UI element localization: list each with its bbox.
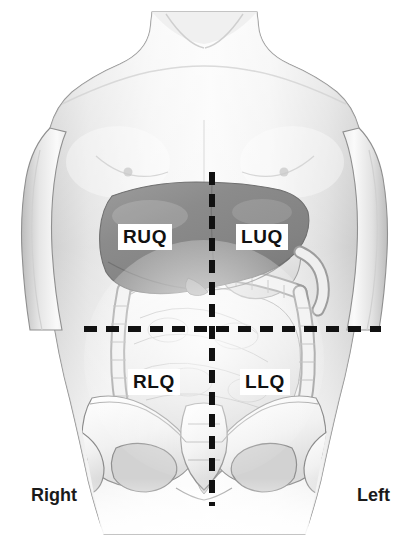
- quadrant-label-rlq: RLQ: [128, 369, 180, 395]
- quadrant-label-luq: LUQ: [236, 224, 288, 250]
- anatomy-illustration: [0, 0, 409, 543]
- orientation-label-right: Right: [31, 484, 77, 506]
- abdominal-quadrants-figure: RUQ LUQ RLQ LLQ Right Left: [0, 0, 409, 543]
- orientation-label-left: Left: [357, 484, 390, 506]
- quadrant-label-llq: LLQ: [240, 369, 290, 395]
- quadrant-label-ruq: RUQ: [118, 224, 172, 250]
- belly-highlight: [84, 240, 324, 480]
